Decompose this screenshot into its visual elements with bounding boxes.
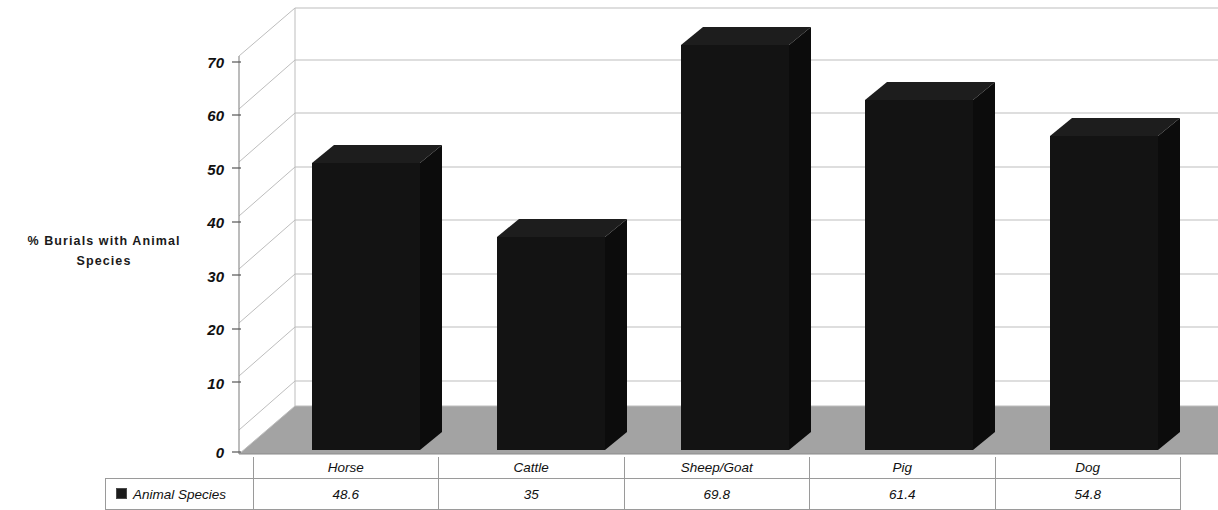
bar-cattle-side: [605, 219, 627, 450]
bar-pig-side: [973, 82, 995, 450]
category-header-cattle: Cattle: [439, 457, 625, 479]
bar-horse-top: [312, 145, 442, 163]
y-tick-label-70: 70: [188, 54, 224, 71]
y-tick-label-10: 10: [188, 375, 224, 392]
bar-horse[interactable]: [312, 145, 442, 450]
series-color-swatch-icon: [116, 488, 127, 499]
bar-sheep-goat-top: [681, 27, 811, 45]
bar-cattle-top: [497, 219, 627, 237]
value-cell-horse: 48.6: [253, 479, 439, 510]
bar-pig-top: [865, 82, 995, 100]
table-row-values: Animal Species 48.6 35 69.8 61.4 54.8: [106, 479, 1181, 510]
y-axis-title: % Burials with Animal Species: [4, 231, 204, 271]
y-axis-title-line2: Species: [4, 251, 204, 271]
bar-horse-side: [420, 145, 442, 450]
category-header-horse: Horse: [253, 457, 439, 479]
value-cell-cattle: 35: [439, 479, 625, 510]
category-header-sheep-goat: Sheep/Goat: [624, 457, 810, 479]
legend-entry-animal-species[interactable]: Animal Species: [106, 479, 254, 510]
bar-cattle[interactable]: [497, 219, 627, 450]
value-cell-pig: 61.4: [810, 479, 996, 510]
bar-dog-side: [1158, 118, 1180, 450]
data-table: Horse Cattle Sheep/Goat Pig Dog Animal S…: [105, 457, 1181, 510]
bar-pig[interactable]: [865, 82, 995, 450]
legend-label: Animal Species: [133, 487, 226, 502]
bar-sheep-goat[interactable]: [681, 27, 811, 450]
category-header-dog: Dog: [995, 457, 1181, 479]
bar-dog[interactable]: [1050, 118, 1180, 450]
category-header-pig: Pig: [810, 457, 996, 479]
y-tick-label-60: 60: [188, 107, 224, 124]
plot-left-wall: [239, 8, 295, 454]
y-tick-label-50: 50: [188, 161, 224, 178]
bar-dog-front: [1050, 136, 1158, 450]
bar-horse-front: [312, 163, 420, 450]
y-axis-title-line1: % Burials with Animal: [4, 231, 204, 251]
bar-sheep-goat-front: [681, 45, 789, 450]
value-cell-sheep-goat: 69.8: [624, 479, 810, 510]
table-row-categories: Horse Cattle Sheep/Goat Pig Dog: [106, 457, 1181, 479]
bar-sheep-goat-side: [789, 27, 811, 450]
table-corner-cell: [106, 457, 254, 479]
y-tick-label-30: 30: [188, 268, 224, 285]
bar-dog-top: [1050, 118, 1180, 136]
bar-pig-front: [865, 100, 973, 450]
bar-cattle-front: [497, 237, 605, 450]
y-tick-label-20: 20: [188, 321, 224, 338]
value-cell-dog: 54.8: [995, 479, 1181, 510]
y-tick-label-40: 40: [188, 214, 224, 231]
